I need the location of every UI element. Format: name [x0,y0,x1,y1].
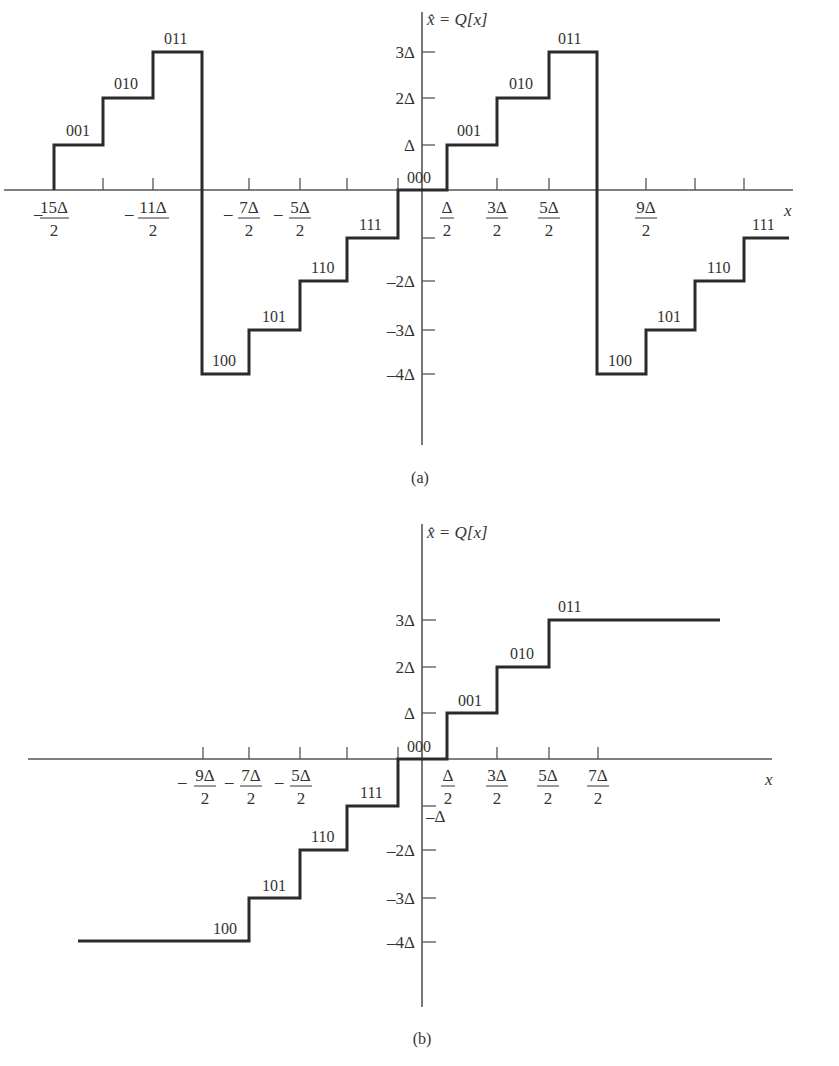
svg-text:010: 010 [510,645,534,662]
y-tick-label: –2Δ [386,272,415,291]
svg-text:5Δ: 5Δ [291,766,311,785]
svg-text:9Δ: 9Δ [636,198,656,217]
y-tick-label: 2Δ [396,658,416,677]
svg-text:5Δ: 5Δ [539,198,559,217]
svg-text:111: 111 [359,216,382,233]
x-axis-label-b: x [764,770,773,789]
svg-text:7Δ: 7Δ [239,198,259,217]
svg-text:011: 011 [558,598,581,615]
y-tick-label: 3Δ [396,611,416,630]
y-tick-label: 2Δ [396,89,416,108]
svg-text:001: 001 [457,122,481,139]
svg-text:011: 011 [558,30,581,47]
svg-text:2: 2 [247,789,256,808]
svg-text:001: 001 [66,122,90,139]
svg-text:110: 110 [311,259,334,276]
svg-text:2: 2 [297,789,306,808]
svg-text:–: – [177,772,187,791]
svg-text:–: – [273,204,283,223]
svg-text:101: 101 [657,308,681,325]
svg-text:110: 110 [311,828,334,845]
svg-text:011: 011 [164,30,187,47]
svg-text:110: 110 [707,259,730,276]
svg-text:5Δ: 5Δ [538,766,558,785]
svg-text:2: 2 [296,221,305,240]
svg-text:100: 100 [213,920,237,937]
caption-b: (b) [413,1030,432,1048]
y-tick-label: –Δ [425,807,446,826]
y-ticks-a [422,52,435,374]
svg-text:010: 010 [114,75,138,92]
svg-text:7Δ: 7Δ [241,766,261,785]
svg-text:2: 2 [50,221,59,240]
svg-text:101: 101 [262,877,286,894]
svg-text:2: 2 [149,221,158,240]
caption-a: (a) [411,469,429,487]
svg-text:111: 111 [752,216,775,233]
y-tick-label: –3Δ [386,889,415,908]
y-axis-label-a: x̂ = Q[x] [426,10,488,29]
svg-text:100: 100 [608,352,632,369]
svg-text:5Δ: 5Δ [290,198,310,217]
svg-text:11Δ: 11Δ [139,198,166,217]
svg-text:101: 101 [262,308,286,325]
svg-text:–: – [223,204,233,223]
svg-text:2: 2 [642,221,651,240]
svg-text:2: 2 [245,221,254,240]
x-ticks-b [203,747,598,759]
svg-text:15Δ: 15Δ [40,198,68,217]
svg-text:–: – [124,204,134,223]
svg-text:2: 2 [545,221,554,240]
y-tick-label: Δ [404,704,415,723]
svg-text:010: 010 [509,75,533,92]
svg-text:111: 111 [360,784,383,801]
svg-text:2: 2 [493,789,502,808]
svg-text:100: 100 [212,352,236,369]
svg-text:7Δ: 7Δ [588,766,608,785]
y-tick-label: –4Δ [386,365,415,384]
y-tick-label: –2Δ [386,841,415,860]
svg-text:Δ: Δ [442,198,453,217]
x-tick-labels-a: – 15Δ 2 – 11Δ 2 – 7Δ 2 – 5Δ 2 Δ 2 3Δ 2 5… [33,198,657,240]
svg-text:–: – [274,772,284,791]
y-axis-label-b: x̂ = Q[x] [426,523,488,542]
svg-text:Δ: Δ [443,766,454,785]
x-axis-label-a: x [783,201,792,220]
x-tick-labels-b: – 9Δ 2 – 7Δ 2 – 5Δ 2 Δ 2 3Δ 2 5Δ 2 7Δ 2 [177,766,609,808]
y-tick-label: –3Δ [386,321,415,340]
y-tick-label: –4Δ [386,933,415,952]
svg-text:2: 2 [594,789,603,808]
svg-text:2: 2 [544,789,553,808]
svg-text:000: 000 [407,169,431,186]
y-tick-label: 3Δ [396,43,416,62]
svg-text:000: 000 [407,738,431,755]
svg-text:2: 2 [443,221,452,240]
svg-text:2: 2 [444,789,453,808]
y-tick-label: Δ [404,136,415,155]
svg-text:–: – [224,772,234,791]
svg-text:2: 2 [201,789,210,808]
svg-text:3Δ: 3Δ [487,766,507,785]
code-labels-a: 001 010 011 100 101 110 111 000 001 010 … [66,30,775,369]
svg-text:3Δ: 3Δ [487,198,507,217]
svg-text:001: 001 [458,692,482,709]
y-ticks-b [422,620,436,942]
quantizer-figure: x̂ = Q[x] x 3Δ 2Δ Δ –2Δ –3Δ –4Δ – 15Δ 2 … [0,0,839,1066]
svg-text:9Δ: 9Δ [195,766,215,785]
svg-text:2: 2 [493,221,502,240]
